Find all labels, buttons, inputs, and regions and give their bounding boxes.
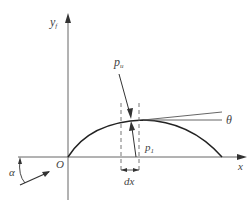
x-axis [18,154,247,160]
origin-label: O [56,158,64,170]
theta-label: θ [226,113,232,127]
pu-label: pu [113,55,124,70]
y-axis [65,13,71,200]
p1-label: p1 [144,141,154,155]
alpha-label: α [9,166,15,178]
alpha-indicator [18,157,50,185]
x-axis-label: x [237,160,243,172]
dx-label: dx [124,175,135,187]
tangent-angle [143,112,222,120]
dx-dimension [121,168,139,172]
y-axis-label: yf [49,15,58,30]
p1-force-arrow [129,121,136,157]
deflection-diagram: yf O x pu p1 θ dx α [0,0,251,211]
